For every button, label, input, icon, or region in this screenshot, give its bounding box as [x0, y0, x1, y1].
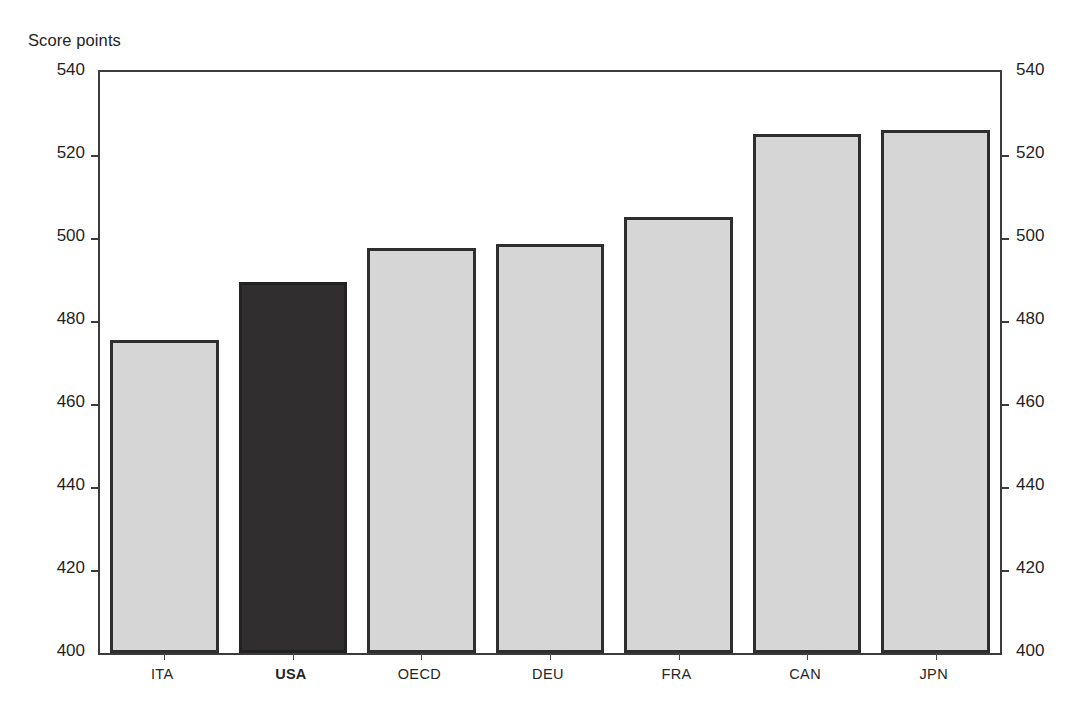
y-axis-label-left-540: 540	[15, 60, 85, 80]
x-tick-can	[807, 653, 808, 660]
bar-jpn	[881, 130, 990, 653]
chart-plot-area	[100, 72, 1000, 653]
x-axis-label-fra: FRA	[661, 666, 691, 682]
bar-ita	[110, 340, 219, 653]
y-axis-label-right-420: 420	[1016, 558, 1086, 578]
y-tick-left-480	[91, 321, 100, 323]
y-axis-label-left-460: 460	[15, 392, 85, 412]
y-axis-label-left-440: 440	[15, 475, 85, 495]
y-tick-left-440	[91, 487, 100, 489]
x-axis-label-oecd: OECD	[398, 666, 442, 682]
y-axis-label-left-420: 420	[15, 558, 85, 578]
y-axis-label-left-480: 480	[15, 309, 85, 329]
y-tick-right-500	[1000, 238, 1009, 240]
y-axis-label-left-520: 520	[15, 143, 85, 163]
y-axis-label-right-540: 540	[1016, 60, 1086, 80]
x-axis-label-can: CAN	[789, 666, 821, 682]
y-axis-label-right-400: 400	[1016, 641, 1086, 661]
y-tick-right-420	[1000, 570, 1009, 572]
y-tick-left-500	[91, 238, 100, 240]
x-tick-usa	[293, 653, 294, 660]
bar-usa	[239, 282, 348, 653]
x-tick-deu	[550, 653, 551, 660]
y-axis-unit-caption: Score points	[28, 31, 121, 50]
x-tick-fra	[679, 653, 680, 660]
y-tick-right-480	[1000, 321, 1009, 323]
bar-deu	[496, 244, 605, 653]
x-tick-jpn	[936, 653, 937, 660]
bar-fra	[624, 217, 733, 653]
y-axis-label-right-480: 480	[1016, 309, 1086, 329]
chart-plot-frame	[98, 70, 1002, 655]
y-tick-right-440	[1000, 487, 1009, 489]
y-axis-label-right-460: 460	[1016, 392, 1086, 412]
x-axis-label-jpn: JPN	[919, 666, 948, 682]
y-axis-label-right-520: 520	[1016, 143, 1086, 163]
y-tick-right-520	[1000, 155, 1009, 157]
x-axis-label-ita: ITA	[151, 666, 174, 682]
x-axis-label-deu: DEU	[532, 666, 564, 682]
y-tick-right-460	[1000, 404, 1009, 406]
x-tick-oecd	[421, 653, 422, 660]
bar-can	[753, 134, 862, 653]
y-axis-label-left-400: 400	[15, 641, 85, 661]
bar-oecd	[367, 248, 476, 653]
y-axis-label-right-500: 500	[1016, 226, 1086, 246]
y-tick-left-520	[91, 155, 100, 157]
y-axis-label-right-440: 440	[1016, 475, 1086, 495]
y-axis-label-left-500: 500	[15, 226, 85, 246]
x-tick-ita	[164, 653, 165, 660]
x-axis-label-usa: USA	[275, 666, 306, 682]
y-tick-left-460	[91, 404, 100, 406]
y-tick-left-420	[91, 570, 100, 572]
